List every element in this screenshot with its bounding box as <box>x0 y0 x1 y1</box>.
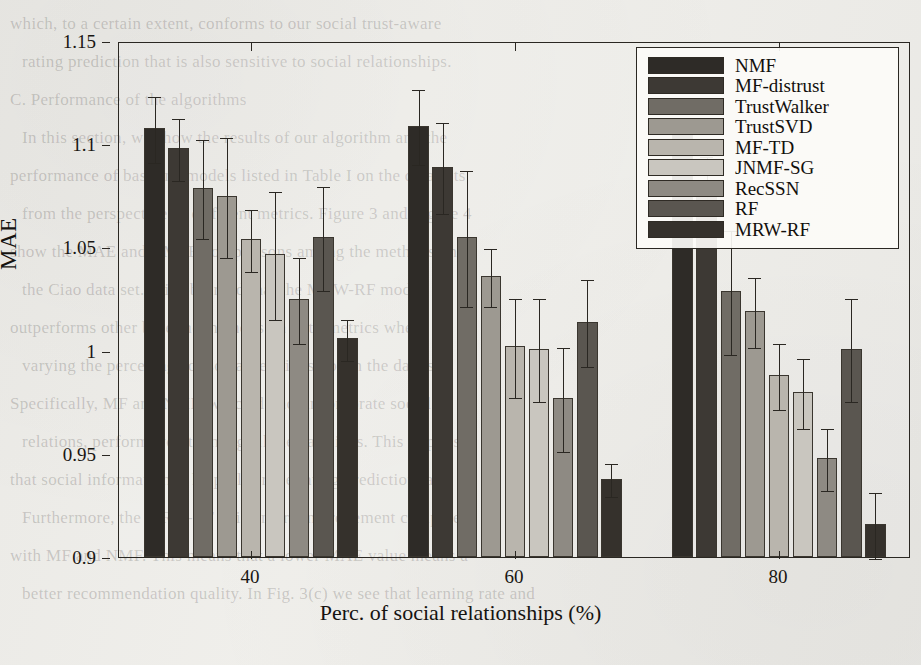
error-bar-cap-lower <box>460 307 473 308</box>
error-bar-cap-upper <box>797 359 810 360</box>
error-bar-cap-lower <box>533 402 546 403</box>
x-axis-tick-top <box>251 43 252 51</box>
x-axis-tick-label: 40 <box>241 566 260 588</box>
error-bar-line <box>467 171 468 307</box>
y-axis-tick <box>102 455 110 456</box>
legend-color-swatch <box>648 200 724 217</box>
error-bar-cap-upper <box>821 429 834 430</box>
x-axis-tick-label: 80 <box>769 566 788 588</box>
legend-color-swatch <box>648 159 724 176</box>
error-bar-line <box>539 299 540 402</box>
legend-label: RF <box>735 199 758 218</box>
error-bar-line <box>347 320 348 361</box>
legend-item: RecSSN <box>648 178 889 199</box>
x-axis-tick-label: 60 <box>505 566 524 588</box>
legend-item: MF-distrust <box>648 76 889 97</box>
legend-label: MF-distrust <box>735 76 825 95</box>
bar <box>168 148 189 557</box>
legend-color-swatch <box>648 221 724 238</box>
legend-color-swatch <box>648 139 724 156</box>
bar <box>408 126 429 557</box>
error-bar-cap-upper <box>269 192 282 193</box>
error-bar-cap-upper <box>869 493 882 494</box>
y-axis-tick-label: 1.05 <box>63 237 96 259</box>
x-axis-tick <box>515 551 516 559</box>
error-bar-cap-lower <box>196 239 209 240</box>
error-bar-line <box>299 258 300 345</box>
legend: NMFMF-distrustTrustWalkerTrustSVDMF-TDJN… <box>636 47 899 249</box>
error-bar-line <box>803 359 804 429</box>
x-axis-title: Perc. of social relationships (%) <box>0 600 921 626</box>
legend-label: MF-TD <box>735 138 794 157</box>
error-bar-cap-upper <box>533 299 546 300</box>
y-axis-tick-labels: 1.151.11.0510.950.9 <box>58 42 110 558</box>
error-bar-cap-upper <box>220 138 233 139</box>
y-axis-tick-label: 1.1 <box>72 134 96 156</box>
legend-label: NMF <box>735 56 776 75</box>
error-bar-line <box>779 344 780 410</box>
legend-label: TrustWalker <box>735 97 829 116</box>
error-bar-line <box>443 123 444 214</box>
error-bar-cap-upper <box>509 299 522 300</box>
error-bar-cap-upper <box>148 97 161 98</box>
error-bar-cap-lower <box>220 258 233 259</box>
error-bar-line <box>419 90 420 164</box>
error-bar-cap-lower <box>773 410 786 411</box>
legend-color-swatch <box>648 57 724 74</box>
error-bar-cap-lower <box>412 165 425 166</box>
error-bar-cap-upper <box>845 299 858 300</box>
bar <box>193 188 214 557</box>
error-bar-line <box>611 464 612 497</box>
error-bar-cap-upper <box>581 280 594 281</box>
x-axis-tick <box>251 551 252 559</box>
error-bar-line <box>179 119 180 181</box>
error-bar-cap-lower <box>172 181 185 182</box>
legend-label: TrustSVD <box>735 117 812 136</box>
y-axis-tick-label: 1.15 <box>63 31 96 53</box>
error-bar-line <box>227 138 228 258</box>
legend-color-swatch <box>648 77 724 94</box>
legend-color-swatch <box>648 98 724 115</box>
error-bar-cap-upper <box>196 140 209 141</box>
error-bar-line <box>203 140 204 239</box>
error-bar-cap-lower <box>269 320 282 321</box>
error-bar-line <box>755 278 756 348</box>
error-bar-cap-lower <box>341 361 354 362</box>
error-bar-line <box>275 192 276 320</box>
error-bar-cap-lower <box>748 348 761 349</box>
error-bar-line <box>731 231 732 355</box>
error-bar-line <box>323 187 324 290</box>
error-bar-cap-upper <box>293 258 306 259</box>
error-bar-line <box>827 429 828 491</box>
y-axis-tick-label: 0.9 <box>72 547 96 569</box>
error-bar-cap-lower <box>436 214 449 215</box>
error-bar-cap-lower <box>821 491 834 492</box>
error-bar-cap-lower <box>484 307 497 308</box>
bar <box>337 338 358 557</box>
error-bar-cap-lower <box>869 559 882 560</box>
legend-item: JNMF-SG <box>648 158 889 179</box>
error-bar-cap-upper <box>341 320 354 321</box>
error-bar-cap-lower <box>845 402 858 403</box>
error-bar-line <box>491 249 492 307</box>
error-bar-cap-upper <box>484 249 497 250</box>
error-bar-cap-lower <box>605 497 618 498</box>
x-axis-tick-top <box>515 43 516 51</box>
legend-item: RF <box>648 199 889 220</box>
legend-item: TrustSVD <box>648 117 889 138</box>
legend-item: TrustWalker <box>648 96 889 117</box>
bar <box>481 276 502 557</box>
y-axis-tick <box>102 145 110 146</box>
error-bar-cap-upper <box>172 119 185 120</box>
error-bar-cap-upper <box>460 171 473 172</box>
error-bar-line <box>155 97 156 163</box>
error-bar-cap-upper <box>748 278 761 279</box>
error-bar-line <box>587 280 588 367</box>
error-bar-line <box>251 210 252 272</box>
error-bar-cap-lower <box>148 163 161 164</box>
y-axis-tick <box>102 352 110 353</box>
legend-item: MRW-RF <box>648 219 889 240</box>
error-bar-cap-lower <box>581 367 594 368</box>
error-bar-cap-upper <box>436 123 449 124</box>
legend-item: NMF <box>648 55 889 76</box>
